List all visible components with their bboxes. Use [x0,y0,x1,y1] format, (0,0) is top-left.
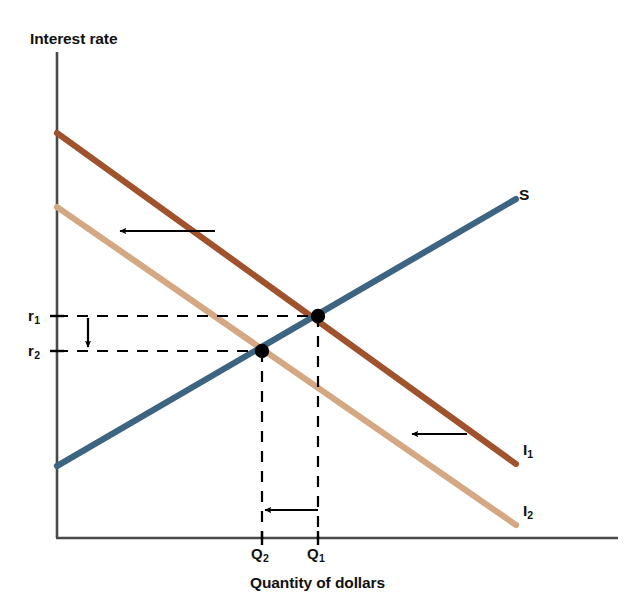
guide-lines-group [57,316,318,538]
x-tick-label-q2: Q2 [251,545,269,562]
investment-demand-curve-2 [57,207,516,525]
interest-rate-quantity-chart: Interest rate Quantity of dollars r1 r2 … [0,0,635,607]
curves-group [57,133,516,525]
investment-curve-2-label: I2 [523,502,533,520]
y-axis-title: Interest rate [30,30,117,48]
x-axis-title: Quantity of dollars [0,574,635,592]
annotation-arrows-group [88,231,467,510]
equilibrium-point-2 [255,344,269,358]
investment-curve-1-label: I1 [523,441,533,459]
chart-canvas [0,0,635,607]
axes-group [56,52,618,538]
y-tick-label-r2: r2 [28,342,40,359]
y-tick-label-r1: r1 [28,307,40,324]
investment-demand-curve-1 [57,133,516,464]
x-tick-label-q1: Q1 [307,545,325,562]
equilibrium-point-1 [311,309,325,323]
supply-curve [57,199,516,466]
supply-curve-label: S [519,186,529,204]
